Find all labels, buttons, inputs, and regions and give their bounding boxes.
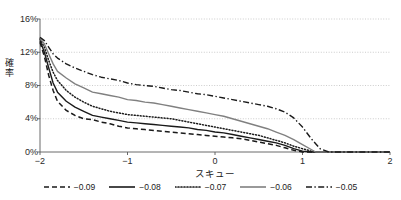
- legend-item-1[interactable]: −0.09: [44, 182, 96, 192]
- x-tick-label: −1: [118, 157, 138, 166]
- x-tick-label: 1: [293, 157, 313, 166]
- series-line-3: [40, 39, 390, 152]
- legend-item-4[interactable]: −0.06: [240, 182, 292, 192]
- legend-label: −0.05: [336, 182, 358, 192]
- data-series-group: [40, 37, 390, 152]
- series-line-4: [40, 38, 390, 152]
- legend-item-5[interactable]: −0.05: [306, 182, 358, 192]
- legend-swatch-icon: [306, 183, 332, 191]
- gridlines: [40, 19, 390, 119]
- legend-swatch-icon: [109, 183, 135, 191]
- chart-legend: −0.09−0.08−0.07−0.06−0.05: [0, 182, 401, 192]
- chart-figure: 確率 0%4%8%12%16% −2−1012 スキュー −0.09−0.08−…: [0, 0, 401, 200]
- x-tick-label: 0: [205, 157, 225, 166]
- x-tick-label: −2: [30, 157, 50, 166]
- x-axis-label-text: スキュー: [195, 168, 235, 179]
- legend-swatch-icon: [44, 183, 70, 191]
- legend-label: −0.06: [270, 182, 292, 192]
- legend-item-3[interactable]: −0.07: [175, 182, 227, 192]
- x-tick-label: 2: [380, 157, 400, 166]
- series-line-1: [40, 42, 390, 152]
- x-axis-label: スキュー: [40, 166, 390, 180]
- legend-item-2[interactable]: −0.08: [109, 182, 161, 192]
- legend-label: −0.07: [205, 182, 227, 192]
- series-line-2: [40, 41, 390, 152]
- legend-label: −0.08: [139, 182, 161, 192]
- legend-label: −0.09: [74, 182, 96, 192]
- legend-swatch-icon: [175, 183, 201, 191]
- series-line-5: [40, 37, 390, 152]
- legend-swatch-icon: [240, 183, 266, 191]
